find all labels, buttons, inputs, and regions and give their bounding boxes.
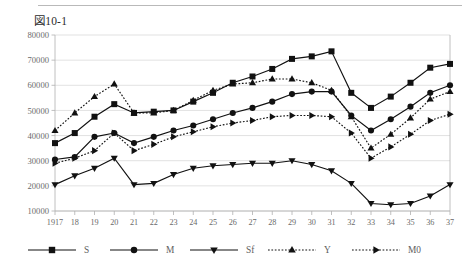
x-tick-label: 31 — [327, 218, 335, 227]
x-tick-label: 25 — [209, 218, 217, 227]
data-point-marker — [230, 119, 236, 126]
data-point-marker — [191, 128, 197, 135]
axes — [55, 35, 450, 211]
x-tick-label: 33 — [367, 218, 375, 227]
y-tick-label: 50000 — [28, 106, 49, 116]
x-tick-label: 34 — [387, 218, 395, 227]
data-point-marker — [446, 182, 453, 188]
data-point-marker — [427, 90, 433, 96]
chart-svg: 1000020000300004000050000600007000080000… — [0, 0, 474, 270]
data-point-marker — [250, 117, 256, 124]
legend-item-S[interactable]: S — [28, 245, 89, 255]
data-point-marker — [151, 141, 157, 148]
data-point-marker — [130, 182, 137, 188]
data-point-marker — [250, 73, 256, 79]
data-point-marker — [111, 80, 118, 86]
data-point-marker — [211, 123, 217, 130]
series-Sf — [51, 156, 453, 209]
data-point-marker — [190, 122, 196, 128]
data-point-marker — [171, 133, 177, 140]
data-point-marker — [269, 66, 275, 72]
data-point-marker — [269, 75, 276, 81]
data-point-marker — [288, 75, 295, 81]
data-point-marker — [388, 94, 394, 100]
data-point-marker — [131, 247, 138, 254]
x-axis-ticks — [55, 211, 450, 215]
legend-item-Y[interactable]: Y — [268, 245, 331, 255]
data-point-marker — [269, 99, 275, 105]
data-point-marker — [52, 140, 58, 146]
data-point-marker — [428, 117, 434, 124]
data-point-marker — [269, 161, 276, 167]
data-point-marker — [209, 87, 216, 93]
data-point-marker — [289, 56, 295, 62]
x-tick-label: 18 — [71, 218, 79, 227]
legend-label: S — [84, 245, 89, 255]
data-point-marker — [328, 168, 335, 174]
data-point-marker — [427, 65, 433, 71]
data-point-marker — [111, 101, 117, 107]
x-tick-label: 24 — [189, 218, 197, 227]
x-tick-label: 32 — [347, 218, 355, 227]
y-tick-label: 30000 — [28, 156, 49, 166]
data-point-marker — [446, 88, 453, 94]
data-point-marker — [388, 143, 394, 150]
data-point-marker — [230, 110, 236, 116]
x-tick-label: 30 — [308, 218, 316, 227]
legend-item-Sf[interactable]: Sf — [190, 245, 255, 255]
x-tick-label: 20 — [110, 218, 118, 227]
x-tick-label: 36 — [426, 218, 434, 227]
data-point-marker — [407, 104, 413, 110]
x-tick-label: 1917 — [47, 218, 63, 227]
data-point-marker — [249, 105, 255, 111]
data-point-marker — [210, 247, 218, 254]
data-point-marker — [92, 114, 98, 120]
data-point-marker — [447, 82, 453, 88]
chart-legend: SMSfYM0 — [28, 245, 421, 255]
data-point-marker — [387, 202, 394, 208]
data-point-marker — [329, 48, 335, 54]
data-point-marker — [348, 90, 354, 96]
line-chart: 1000020000300004000050000600007000080000… — [0, 0, 474, 270]
legend-item-M0[interactable]: M0 — [352, 245, 421, 255]
legend-item-M[interactable]: M — [110, 245, 175, 255]
data-point-marker — [309, 53, 315, 59]
x-tick-label: 35 — [406, 218, 414, 227]
y-tick-label: 80000 — [28, 30, 49, 40]
data-point-marker — [132, 147, 138, 154]
data-point-marker — [49, 247, 55, 253]
data-point-marker — [367, 144, 374, 150]
x-tick-label: 29 — [288, 218, 296, 227]
data-point-marker — [289, 91, 295, 97]
data-point-marker — [368, 105, 374, 111]
data-point-marker — [131, 140, 137, 146]
data-point-marker — [249, 79, 256, 85]
data-point-marker — [288, 246, 296, 253]
data-point-marker — [408, 131, 414, 138]
y-tick-label: 60000 — [28, 80, 49, 90]
data-point-marker — [72, 130, 78, 136]
legend-label: Sf — [246, 245, 255, 255]
data-point-marker — [91, 93, 98, 99]
series-Y — [51, 75, 453, 150]
x-tick-label: 21 — [130, 218, 138, 227]
x-tick-label: 23 — [169, 218, 177, 227]
y-tick-label: 40000 — [28, 131, 49, 141]
data-point-marker — [373, 246, 380, 254]
data-point-marker — [309, 112, 315, 119]
data-point-marker — [151, 134, 157, 140]
data-point-marker — [51, 182, 58, 188]
data-point-marker — [448, 111, 454, 118]
data-point-marker — [309, 89, 315, 95]
x-tick-label: 28 — [268, 218, 276, 227]
x-axis-tick-labels: 1917181920212223242526272829303132333435… — [47, 218, 454, 227]
data-point-marker — [387, 131, 394, 137]
data-point-marker — [408, 80, 414, 86]
legend-label: M — [166, 245, 175, 255]
y-tick-label: 70000 — [28, 55, 49, 65]
data-point-marker — [290, 112, 296, 119]
y-axis-tick-labels: 1000020000300004000050000600007000080000 — [28, 30, 49, 216]
y-tick-label: 10000 — [28, 206, 49, 216]
y-tick-label: 20000 — [28, 181, 49, 191]
x-tick-label: 19 — [90, 218, 98, 227]
